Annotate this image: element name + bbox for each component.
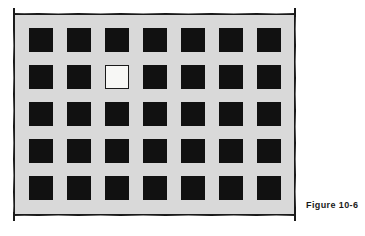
- grid-square: [257, 139, 281, 163]
- grid-square: [143, 139, 167, 163]
- grid-square: [219, 65, 243, 89]
- panel-border-left: [13, 13, 15, 216]
- panel-border-top: [13, 13, 296, 15]
- panel-border-bottom: [13, 214, 296, 216]
- grid-square: [67, 139, 91, 163]
- grid-square: [181, 102, 205, 126]
- grid-square: [219, 139, 243, 163]
- grid-square: [257, 65, 281, 89]
- grid-square: [67, 28, 91, 52]
- grid-square: [105, 176, 129, 200]
- panel-border-right: [294, 13, 296, 216]
- corner-tick-top-left: [13, 8, 15, 17]
- grid-square: [181, 139, 205, 163]
- grid-square: [105, 102, 129, 126]
- grid-square: [181, 65, 205, 89]
- grid-square: [257, 176, 281, 200]
- grid-square: [29, 176, 53, 200]
- grid-square: [143, 28, 167, 52]
- grid-square: [219, 28, 243, 52]
- figure-caption: Figure 10-6: [306, 200, 358, 210]
- grid-square: [105, 28, 129, 52]
- grid-square: [67, 65, 91, 89]
- grid-square: [181, 176, 205, 200]
- grid-square: [105, 139, 129, 163]
- grid-square: [143, 102, 167, 126]
- square-grid: [29, 28, 281, 201]
- grid-square: [29, 28, 53, 52]
- corner-tick-bottom-right: [294, 212, 296, 221]
- grid-square: [29, 102, 53, 126]
- grid-square: [257, 28, 281, 52]
- grid-square: [143, 176, 167, 200]
- grid-square: [219, 102, 243, 126]
- grid-square: [67, 176, 91, 200]
- grid-square: [67, 102, 91, 126]
- corner-tick-bottom-left: [13, 212, 15, 221]
- grid-square: [219, 176, 243, 200]
- grid-square-inverted: [105, 65, 129, 89]
- grid-square: [29, 65, 53, 89]
- grid-square: [143, 65, 167, 89]
- grid-square: [181, 28, 205, 52]
- grid-square: [29, 139, 53, 163]
- corner-tick-top-right: [294, 8, 296, 17]
- grid-square: [257, 102, 281, 126]
- figure-panel: [14, 14, 295, 215]
